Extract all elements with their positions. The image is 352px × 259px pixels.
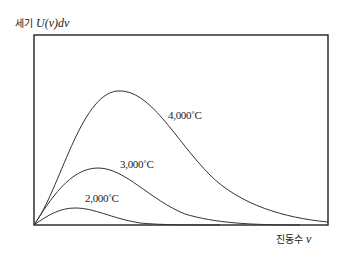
curve-label-3000: 3,000˚C xyxy=(120,158,154,170)
x-axis-label-math: v xyxy=(306,232,311,246)
plot-frame xyxy=(34,35,328,225)
x-axis-label: 진동수 v xyxy=(276,231,311,247)
plot-area xyxy=(0,0,352,259)
curve-label-4000: 4,000˚C xyxy=(168,109,202,121)
curve-3000 xyxy=(34,168,300,225)
curve-2000 xyxy=(34,208,220,225)
x-axis-label-korean: 진동수 xyxy=(276,234,303,245)
curve-label-2000: 2,000˚C xyxy=(85,192,119,204)
